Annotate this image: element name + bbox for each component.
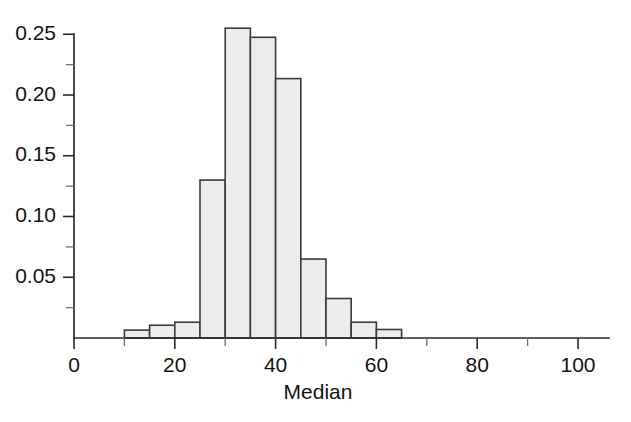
y-tick-label: 0.25	[15, 21, 56, 44]
x-axis-title: Median	[284, 380, 353, 403]
histogram-figure: 0.050.100.150.200.25020406080100 Median	[0, 0, 631, 422]
x-tick-label: 40	[264, 353, 287, 376]
x-tick-label: 20	[163, 353, 186, 376]
x-tick-label: 80	[466, 353, 489, 376]
histogram-bar	[276, 79, 301, 338]
y-tick-label: 0.10	[15, 203, 56, 226]
histogram-plot-area: 0.050.100.150.200.25020406080100 Median	[0, 0, 631, 422]
histogram-bar	[124, 330, 149, 338]
x-tick-label: 0	[68, 353, 80, 376]
axes-group	[74, 34, 609, 338]
histogram-bar	[301, 259, 326, 338]
histogram-bar	[326, 299, 351, 338]
histogram-bar	[225, 28, 250, 338]
histogram-bar	[150, 325, 175, 338]
histogram-bar	[376, 329, 401, 338]
bars-group	[124, 28, 401, 338]
histogram-bar	[175, 322, 200, 338]
y-tick-label: 0.15	[15, 142, 56, 165]
y-tick-label: 0.20	[15, 82, 56, 105]
histogram-bar	[200, 180, 225, 338]
x-tick-label: 100	[560, 353, 595, 376]
histogram-bar	[351, 322, 376, 338]
x-tick-label: 60	[365, 353, 388, 376]
histogram-bar	[250, 37, 275, 338]
y-tick-label: 0.05	[15, 264, 56, 287]
